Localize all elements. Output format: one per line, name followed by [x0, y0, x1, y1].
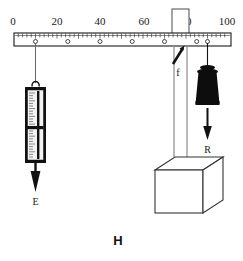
- force-label-R: R: [204, 144, 211, 155]
- ruler-label-40: 40: [95, 15, 107, 27]
- ruler-hole-90[interactable]: [206, 40, 210, 44]
- ruler-hole-55[interactable]: [130, 40, 134, 44]
- ruler-hole-10[interactable]: [34, 40, 38, 44]
- spring-scale-dynamometer: [25, 81, 46, 163]
- support-base-box: [155, 157, 223, 213]
- force-label-E: E: [32, 196, 38, 207]
- ruler-label-60: 60: [139, 15, 151, 27]
- force-label-f: f: [176, 67, 180, 78]
- ruler-hole-40[interactable]: [98, 40, 102, 44]
- measuring-ruler-beam: [14, 33, 231, 46]
- ruler-hole-85[interactable]: [195, 40, 199, 44]
- diagram-svg: 0 20 40 60 80 100: [0, 0, 243, 261]
- force-arrow-E: E: [31, 163, 41, 207]
- figure-canvas: 0 20 40 60 80 100: [0, 0, 243, 261]
- hanging-weight-mass: [196, 65, 220, 105]
- figure-label: H: [113, 233, 122, 248]
- ruler-label-20: 20: [52, 15, 64, 27]
- vertical-support-post-lower: [174, 46, 187, 157]
- spring-scale-pointer: [26, 126, 44, 129]
- ruler-hole-25[interactable]: [66, 40, 70, 44]
- ruler-label-100: 100: [219, 15, 236, 27]
- ruler-label-0: 0: [10, 15, 16, 27]
- ruler-scale-labels: 0 20 40 60 80 100: [10, 15, 236, 27]
- force-arrow-f: f: [173, 46, 185, 79]
- force-arrow-R: R: [203, 108, 212, 155]
- ruler-hole-70[interactable]: [163, 40, 167, 44]
- vertical-support-post-upper: [172, 9, 189, 34]
